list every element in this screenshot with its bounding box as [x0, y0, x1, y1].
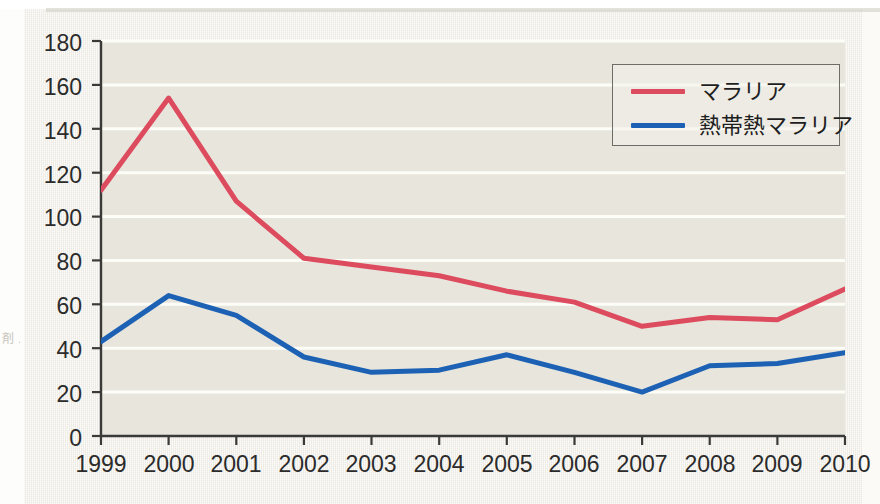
x-tick-label: 2002	[269, 451, 339, 478]
x-tick-label: 1999	[66, 451, 136, 478]
y-axis-ticks	[92, 41, 101, 436]
y-tick-label: 120	[20, 162, 82, 189]
x-tick-label: 2010	[810, 451, 880, 478]
y-tick-label: 0	[20, 425, 82, 452]
x-tick-label: 2004	[404, 451, 474, 478]
x-tick-label: 2001	[201, 451, 271, 478]
x-tick-label: 2008	[675, 451, 745, 478]
legend-entry-malaria: マラリア	[613, 76, 841, 110]
x-tick-label: 2003	[336, 451, 406, 478]
line-chart: 180 160 140 120 100 80 60 40 20 0 1999 2…	[0, 0, 880, 504]
y-tick-label: 60	[20, 293, 82, 320]
legend-entry-falciparum-malaria: 熱帯熱マラリア	[613, 110, 841, 144]
line-swatch-red-icon	[631, 89, 685, 94]
y-tick-label: 80	[20, 249, 82, 276]
chart-legend: マラリア 熱帯熱マラリア	[612, 64, 840, 146]
x-tick-label: 2009	[742, 451, 812, 478]
x-axis-ticks	[101, 436, 845, 445]
y-tick-label: 40	[20, 337, 82, 364]
line-swatch-blue-icon	[631, 123, 685, 128]
y-tick-label: 140	[20, 118, 82, 145]
y-tick-label: 180	[20, 30, 82, 57]
x-tick-label: 2006	[539, 451, 609, 478]
x-tick-label: 2005	[472, 451, 542, 478]
legend-label: 熱帯熱マラリア	[699, 107, 853, 139]
y-tick-label: 100	[20, 205, 82, 232]
y-tick-label: 160	[20, 74, 82, 101]
chart-page: 剤 ノ ヽ メ	[0, 0, 880, 504]
x-tick-label: 2000	[134, 451, 204, 478]
legend-label: マラリア	[699, 73, 787, 105]
x-tick-label: 2007	[607, 451, 677, 478]
y-tick-label: 20	[20, 381, 82, 408]
